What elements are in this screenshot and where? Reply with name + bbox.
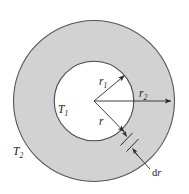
annulus-diagram: T1 T2 r1 r2 r dr (0, 0, 189, 194)
outer-radius-sub: 2 (143, 93, 147, 102)
differential-thickness-label: dr (152, 167, 162, 178)
differential-base: r (157, 167, 162, 178)
inner-temperature-sub: 1 (64, 109, 68, 118)
variable-radius-label: r (99, 115, 104, 127)
inner-radius-sub: 1 (103, 81, 107, 90)
outer-temperature-sub: 2 (19, 151, 23, 160)
figure-container: T1 T2 r1 r2 r dr (0, 0, 189, 194)
outer-temperature-label: T2 (13, 145, 23, 160)
